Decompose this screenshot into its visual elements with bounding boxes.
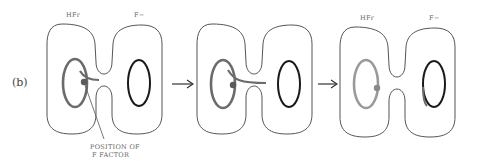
conjugation-diagram: (b) HFr F− POSITION OF F FACTOR HFr F− bbox=[0, 0, 484, 163]
f-factor-dot bbox=[374, 85, 380, 91]
annotation-line-2: F FACTOR bbox=[92, 151, 130, 159]
hfr-chromosome bbox=[354, 60, 378, 108]
hfr-label: HFr bbox=[360, 14, 375, 22]
f-minus-chromosome bbox=[128, 60, 150, 106]
f-factor-tail bbox=[80, 71, 99, 80]
f-minus-label: F− bbox=[134, 11, 145, 19]
panel-2 bbox=[197, 24, 312, 134]
panel-3: HFr F− bbox=[340, 14, 455, 137]
part-label: (b) bbox=[12, 76, 28, 89]
mating-pair-outline bbox=[340, 27, 455, 137]
arrow-icon bbox=[318, 80, 337, 88]
f-factor-dot bbox=[230, 82, 236, 88]
arrow-icon bbox=[172, 80, 193, 88]
annotation-line-1: POSITION OF bbox=[90, 143, 140, 151]
hfr-label: HFr bbox=[66, 11, 81, 19]
f-minus-label: F− bbox=[429, 14, 440, 22]
mating-pair-outline bbox=[197, 24, 312, 134]
f-minus-chromosome bbox=[278, 61, 300, 107]
f-factor-dot bbox=[81, 79, 87, 85]
f-minus-chromosome bbox=[423, 61, 445, 107]
panel-1: HFr F− POSITION OF F FACTOR bbox=[47, 11, 162, 159]
